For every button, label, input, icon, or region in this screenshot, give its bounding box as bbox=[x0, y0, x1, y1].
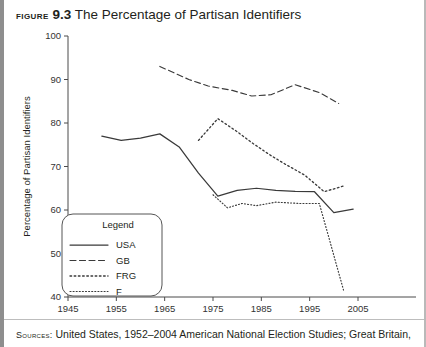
source-note: Sources: United States, 1952–2004 Americ… bbox=[16, 327, 420, 342]
y-tick-label: 90 bbox=[50, 74, 61, 85]
x-tick-label: 1995 bbox=[299, 303, 320, 312]
x-tick-label: 1985 bbox=[251, 303, 272, 312]
x-tick-label: 1955 bbox=[106, 303, 127, 312]
line-chart: 4050607080901001945195519651975198519952… bbox=[0, 0, 426, 312]
x-tick-label: 2005 bbox=[347, 303, 368, 312]
series-line-gb bbox=[160, 66, 339, 103]
series-line-usa bbox=[102, 134, 353, 213]
figure-container: Figure 9.3 The Percentage of Partisan Id… bbox=[0, 0, 426, 347]
x-tick-label: 1965 bbox=[154, 303, 175, 312]
source-label: Sources: bbox=[16, 330, 53, 340]
series-line-frg bbox=[199, 119, 344, 192]
source-text: United States, 1952–2004 American Nation… bbox=[56, 328, 411, 340]
x-tick-label: 1975 bbox=[202, 303, 223, 312]
y-tick-label: 60 bbox=[50, 204, 61, 215]
legend-label-gb: GB bbox=[116, 255, 130, 266]
source-divider bbox=[4, 319, 424, 320]
y-tick-label: 70 bbox=[50, 161, 61, 172]
legend-label-f: F bbox=[116, 286, 122, 297]
series-line-f bbox=[213, 195, 344, 290]
y-tick-label: 100 bbox=[45, 30, 61, 41]
y-tick-label: 40 bbox=[50, 291, 61, 302]
legend-label-usa: USA bbox=[116, 239, 136, 250]
y-tick-label: 50 bbox=[50, 248, 61, 259]
y-axis-label: Percentage of Partisan Identifiers bbox=[21, 96, 32, 237]
x-tick-label: 1945 bbox=[57, 303, 78, 312]
legend-label-frg: FRG bbox=[116, 270, 136, 281]
legend-title: Legend bbox=[102, 219, 134, 230]
y-tick-label: 80 bbox=[50, 117, 61, 128]
